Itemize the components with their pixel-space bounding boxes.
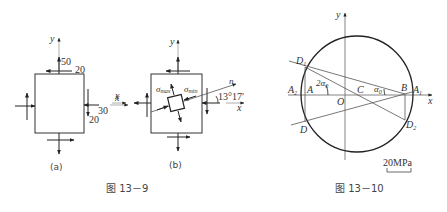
diameter-d1-d2 — [305, 67, 405, 120]
mohr-y-label: y — [335, 9, 341, 20]
mohr-labels: y x D1 A2 A 2α0 C O α0 B A1 D D2 20MPa — [287, 9, 433, 172]
x-label-b-left: x — [114, 90, 120, 101]
x-label-b-right: x — [236, 102, 242, 113]
panel-a — [15, 38, 128, 154]
sigma-max-arrow-up — [171, 84, 174, 95]
line-d-b — [291, 92, 412, 125]
point-d2-label: D2 — [405, 119, 416, 131]
angle-2a0-label: 2α0 — [316, 78, 328, 89]
angle-a0-arc — [384, 89, 385, 95]
point-c-label: C — [357, 84, 364, 95]
angle-label: 13°17′ — [218, 91, 244, 102]
point-b-label: B — [401, 82, 407, 93]
scale-bar — [387, 168, 411, 172]
sigma-min-label: σmin — [184, 84, 197, 94]
y-label-a: y — [49, 33, 55, 44]
value-top-normal: 50 — [61, 56, 71, 67]
point-a2-label: A2 — [287, 84, 297, 96]
angle-a0-label: α0 — [374, 84, 382, 95]
value-top-shear: 20 — [75, 64, 85, 75]
n-label: n — [229, 76, 234, 86]
point-a1-label: A1 — [412, 84, 422, 96]
point-d-label: D — [299, 124, 308, 135]
sigma-max-arrow-down — [178, 111, 181, 122]
figure-canvas: y 50 20 30 20 x (a) — [0, 0, 447, 212]
y-label-b: y — [169, 36, 175, 47]
point-a-label: A — [306, 84, 314, 95]
value-right-normal: 30 — [98, 105, 108, 116]
mohr-x-label: x — [427, 95, 433, 106]
principal-element — [168, 95, 185, 112]
figure-13-9-caption: 图 13－9 — [106, 183, 148, 194]
sigma-min-arrow-left — [157, 106, 168, 110]
point-d1-label: D1 — [295, 55, 306, 67]
point-o-label: O — [337, 96, 344, 107]
stress-element-a — [35, 74, 84, 133]
sigma-max-label: σmax — [156, 84, 171, 94]
figure-13-10-caption: 图 13－10 — [335, 183, 384, 194]
panel-b-label: (b) — [169, 160, 182, 170]
value-right-shear: 20 — [89, 114, 99, 125]
panel-a-label: (a) — [50, 162, 63, 172]
scale-bar-label: 20MPa — [383, 157, 412, 168]
